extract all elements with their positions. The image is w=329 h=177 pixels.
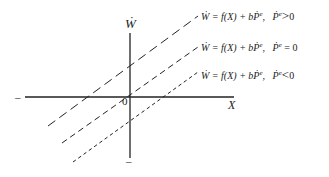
svg-text:Ẇ = f(X) + bṖe, Ṗe<0: Ẇ = f(X) + bṖe, Ṗe<0 [201,67,294,82]
origin-label: 0 [122,95,128,107]
svg-text:Ẇ = f(X) + bṖe, Ṗe = 0: Ẇ = f(X) + bṖe, Ṗe = 0 [201,41,297,54]
line-positive-expected-inflation [48,16,198,126]
y-axis-label: Ẇ [125,16,137,31]
line-negative-expected-inflation [73,72,198,162]
x-negative-mark: – [14,91,21,103]
label-positive-expected-inflation: Ẇ = f(X) + bṖe, Ṗe>0 [201,8,294,23]
expectations-augmented-phillips-diagram: – – Ẇ X 0 Ẇ = f(X) + bṖe, Ṗe>0 Ẇ = f(X) … [0,0,329,177]
x-axis-label: X [227,98,236,112]
label-negative-expected-inflation: Ẇ = f(X) + bṖe, Ṗe<0 [201,67,294,82]
svg-text:Ẇ = f(X) + bṖe, Ṗe>0: Ẇ = f(X) + bṖe, Ṗe>0 [201,8,294,23]
label-zero-expected-inflation: Ẇ = f(X) + bṖe, Ṗe = 0 [201,41,297,54]
y-negative-mark: – [125,155,132,167]
